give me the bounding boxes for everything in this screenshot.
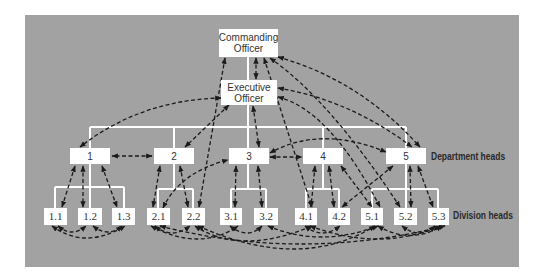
department-heads-label: Department heads bbox=[431, 151, 505, 162]
division-label: 2.2 bbox=[187, 211, 201, 222]
division-node-2-1: 2.1 bbox=[147, 208, 170, 225]
division-label: 4.2 bbox=[332, 211, 346, 222]
division-node-1-3: 1.3 bbox=[112, 208, 135, 225]
department-label: 3 bbox=[246, 151, 252, 162]
department-node-1: 1 bbox=[70, 148, 110, 164]
division-label: 3.2 bbox=[259, 211, 273, 222]
division-label: 3.1 bbox=[224, 211, 238, 222]
division-label: 1.3 bbox=[117, 211, 131, 222]
division-node-5-2: 5.2 bbox=[394, 208, 417, 225]
division-node-4-2: 4.2 bbox=[328, 208, 350, 225]
department-label: 4 bbox=[320, 151, 326, 162]
division-label: 5.2 bbox=[399, 211, 413, 222]
division-label: 2.1 bbox=[152, 211, 166, 222]
commanding-officer-node: Commanding Officer bbox=[219, 29, 278, 57]
division-label: 1.2 bbox=[83, 211, 97, 222]
division-label: 4.1 bbox=[299, 211, 313, 222]
department-node-4: 4 bbox=[303, 148, 343, 164]
executive-officer-node: Executive Officer bbox=[221, 80, 277, 105]
co-label-line1: Commanding bbox=[219, 32, 278, 43]
department-label: 2 bbox=[171, 151, 177, 162]
division-label: 5.3 bbox=[432, 211, 446, 222]
division-node-4-1: 4.1 bbox=[295, 208, 317, 225]
department-label: 1 bbox=[87, 151, 93, 162]
department-label: 5 bbox=[403, 151, 409, 162]
division-label: 1.1 bbox=[49, 211, 63, 222]
department-node-3: 3 bbox=[229, 148, 269, 164]
division-label: 5.1 bbox=[365, 211, 379, 222]
division-heads-label: Division heads bbox=[453, 210, 513, 221]
department-node-2: 2 bbox=[154, 148, 194, 164]
xo-label-line2: Officer bbox=[234, 93, 263, 104]
division-node-5-3: 5.3 bbox=[428, 208, 449, 225]
xo-label-line1: Executive bbox=[227, 82, 270, 93]
division-node-3-2: 3.2 bbox=[254, 208, 278, 225]
division-node-2-2: 2.2 bbox=[182, 208, 205, 225]
co-label-line2: Officer bbox=[234, 43, 263, 54]
department-node-5: 5 bbox=[386, 148, 426, 164]
division-node-3-1: 3.1 bbox=[220, 208, 242, 225]
division-arcs bbox=[52, 226, 445, 249]
division-node-1-1: 1.1 bbox=[44, 208, 67, 225]
division-node-5-1: 5.1 bbox=[361, 208, 383, 225]
division-node-1-2: 1.2 bbox=[78, 208, 102, 225]
